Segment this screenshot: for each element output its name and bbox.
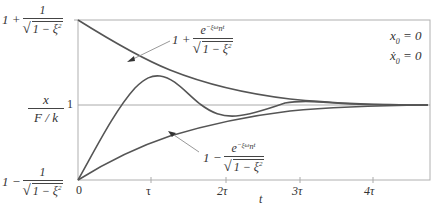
cond1-sub: 0 (396, 37, 400, 46)
y-tick-one: 1 (67, 97, 73, 112)
initial-condition-xdot0: ẋ0 = 0 (390, 48, 422, 66)
lower-env-square: 2 (259, 160, 263, 168)
lower-env-prefix: 1 − (203, 150, 222, 166)
sqrt-icon: √ (23, 21, 31, 36)
y-lower-square: 2 (58, 184, 62, 192)
y-upper-fraction: 1 √1 − ξ2 (23, 4, 63, 36)
lower-envelope-arrow (168, 131, 199, 152)
lower-env-exp-t: t (254, 141, 256, 149)
sqrt-icon: √ (193, 41, 201, 56)
lower-env-radicand: 1 − ξ (234, 160, 259, 174)
y-upper-prefix: 1 + (2, 12, 21, 28)
initial-condition-x0: x0 = 0 (390, 28, 422, 46)
upper-env-exp: −ξω (206, 23, 219, 31)
y-upper-numerator: 1 (38, 4, 48, 18)
y-lower-radicand: 1 − ξ (33, 184, 58, 198)
y-axis-label: x F / k (28, 93, 64, 124)
x-tick-2tau: 2τ (217, 184, 227, 199)
y-upper-square: 2 (58, 22, 62, 30)
upper-env-fraction: e−ξωnt √1 − ξ2 (193, 24, 233, 56)
x-tick-tau: τ (146, 184, 151, 199)
y-lower-numerator: 1 (38, 166, 48, 180)
sqrt-icon: √ (224, 159, 232, 174)
x-tick-4tau: 4τ (364, 184, 374, 199)
y-axis-denominator: F / k (34, 109, 58, 124)
upper-envelope-arrow (127, 41, 170, 62)
lower-env-exp: −ξω (237, 141, 250, 149)
y-axis-numerator: x (41, 93, 51, 108)
cond1-value: = 0 (403, 28, 422, 43)
x-axis-label: t (259, 192, 262, 207)
upper-env-square: 2 (228, 42, 232, 50)
x-tick-zero: 0 (76, 183, 82, 198)
cond2-sub: 0 (396, 57, 400, 66)
sqrt-icon: √ (23, 183, 31, 198)
lower-env-fraction: e−ξωnt √1 − ξ2 (224, 142, 264, 174)
upper-env-radicand: 1 − ξ (203, 42, 228, 56)
upper-env-prefix: 1 + (172, 32, 191, 48)
y-lower-prefix: 1 − (2, 174, 21, 190)
upper-envelope-annotation: 1 + e−ξωnt √1 − ξ2 (172, 24, 233, 56)
y-upper-radicand: 1 − ξ (33, 22, 58, 36)
upper-env-exp-t: t (223, 23, 225, 31)
cond2-value: = 0 (403, 48, 422, 63)
lower-envelope-annotation: 1 − e−ξωnt √1 − ξ2 (203, 142, 264, 174)
x-tick-3tau: 3τ (292, 184, 302, 199)
y-upper-bound-label: 1 + 1 √1 − ξ2 (2, 4, 63, 36)
y-lower-fraction: 1 √1 − ξ2 (23, 166, 63, 198)
y-lower-bound-label: 1 − 1 √1 − ξ2 (2, 166, 63, 198)
